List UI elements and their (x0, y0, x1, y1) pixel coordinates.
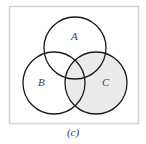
venn-diagram: A B C (0, 0, 146, 144)
set-c-label: C (102, 76, 110, 88)
figure-caption: (c) (0, 126, 146, 138)
set-b-label: B (38, 76, 45, 88)
set-a-label: A (70, 30, 78, 42)
